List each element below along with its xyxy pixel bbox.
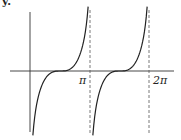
function-plot — [0, 0, 181, 140]
tick-label-pi: π — [79, 75, 86, 86]
tick-label-2pi: 2π — [153, 75, 167, 86]
